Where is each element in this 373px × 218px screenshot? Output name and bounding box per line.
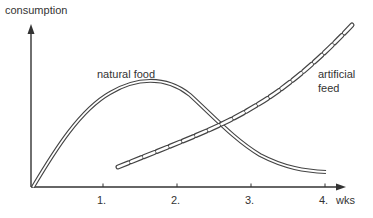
x-axis-label: wks [335, 194, 355, 206]
x-tick-label-3: 3. [245, 194, 254, 206]
artificial-feed-label-line2: feed [318, 82, 339, 94]
artificial-feed-curve [118, 25, 352, 167]
artificial-feed-label-line1: artificial [318, 68, 355, 80]
x-tick-label-1: 1. [97, 194, 106, 206]
chart-svg: consumption natural food artificial feed… [0, 0, 373, 218]
natural-food-curve [33, 81, 326, 187]
x-tick-label-4: 4. [319, 194, 328, 206]
x-axis-arrow-icon [336, 184, 346, 191]
consumption-chart: consumption natural food artificial feed… [0, 0, 373, 218]
natural-food-label: natural food [97, 68, 155, 80]
x-tick-label-2: 2. [171, 194, 180, 206]
x-axis [31, 184, 346, 191]
y-axis-arrow-icon [28, 24, 35, 34]
y-axis-label: consumption [5, 4, 67, 16]
y-axis [28, 24, 35, 187]
